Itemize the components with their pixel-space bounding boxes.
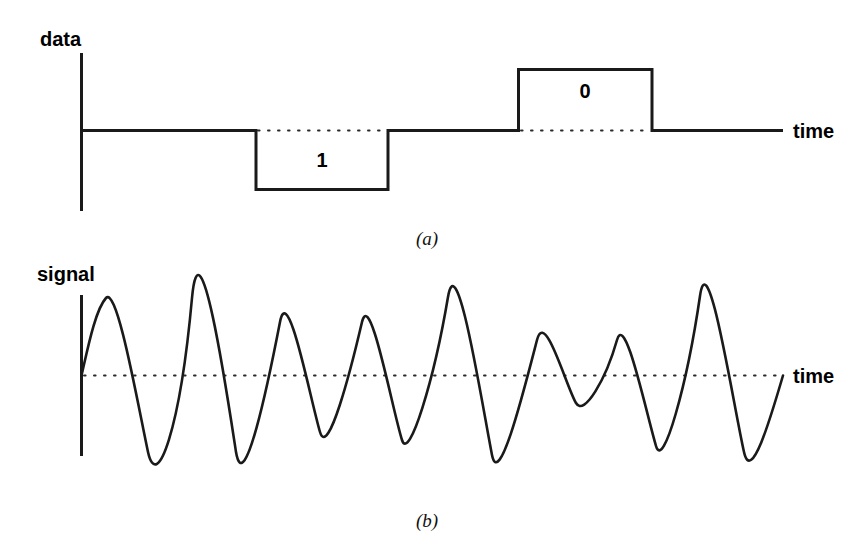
fsk-figure: data 1 0 time (a) signal time (b) <box>0 0 860 560</box>
panel-a: data 1 0 time (a) <box>40 28 834 250</box>
panel-a-bit-label-1: 1 <box>316 149 327 171</box>
panel-a-data-waveform <box>82 70 784 190</box>
panel-a-bit-label-0: 0 <box>579 80 590 102</box>
panel-a-caption: (a) <box>416 228 438 250</box>
panel-b-caption: (b) <box>416 510 438 532</box>
panel-b-x-axis-label: time <box>793 365 834 387</box>
panel-a-x-axis-label: time <box>793 120 834 142</box>
panel-b: signal time (b) <box>37 263 834 532</box>
panel-a-y-axis-label: data <box>40 28 82 50</box>
panel-b-signal-waveform <box>82 275 784 464</box>
panel-b-y-axis-label: signal <box>37 263 95 285</box>
